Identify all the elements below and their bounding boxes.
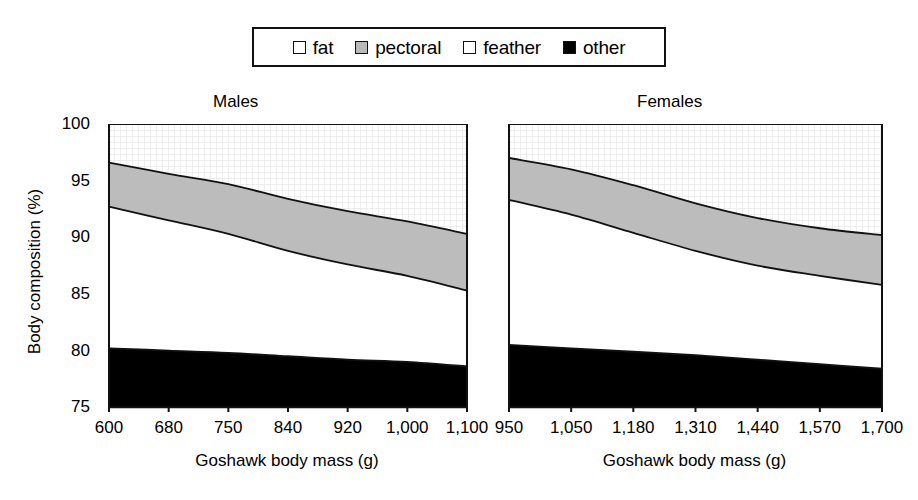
plot-panel-males <box>108 124 468 412</box>
panel-title-females: Females <box>637 93 702 110</box>
x-tick-label: 1,100 <box>446 419 489 436</box>
x-tick-label: 950 <box>495 419 523 436</box>
legend-label-feather: feather <box>483 38 541 57</box>
legend-label-fat: fat <box>313 38 334 57</box>
x-tick-label: 1,310 <box>674 419 717 436</box>
x-tick-label: 1,000 <box>386 419 429 436</box>
x-axis-tick-labels-males: 6006807508409201,0001,100 <box>108 419 466 441</box>
y-tick-label: 85 <box>50 285 90 302</box>
x-tick-label: 1,440 <box>736 419 779 436</box>
legend-label-pectoral: pectoral <box>375 38 441 57</box>
figure-container: fat pectoral feather other Males Females… <box>0 0 918 500</box>
legend-swatch-pectoral-icon <box>355 41 368 54</box>
x-tick-label: 840 <box>274 419 302 436</box>
legend-item-other: other <box>563 38 625 57</box>
males-area-chart <box>108 124 468 412</box>
legend-item-pectoral: pectoral <box>355 38 441 57</box>
x-tick-label: 1,180 <box>612 419 655 436</box>
x-axis-title-females: Goshawk body mass (g) <box>508 452 881 469</box>
y-axis-label: Body composition (%) <box>26 152 43 392</box>
y-tick-label: 95 <box>50 172 90 189</box>
x-tick-label: 1,050 <box>550 419 593 436</box>
x-tick-label: 920 <box>334 419 362 436</box>
y-tick-label: 80 <box>50 342 90 359</box>
legend-item-fat: fat <box>293 38 334 57</box>
x-tick-label: 750 <box>214 419 242 436</box>
y-tick-label: 90 <box>50 228 90 245</box>
x-axis-tick-labels-females: 9501,0501,1801,3101,4401,5701,700 <box>508 419 881 441</box>
plot-panel-females <box>508 124 883 412</box>
x-tick-label: 680 <box>155 419 183 436</box>
legend-item-feather: feather <box>463 38 541 57</box>
x-tick-label: 1,700 <box>861 419 904 436</box>
legend-swatch-other-icon <box>563 41 576 54</box>
females-area-chart <box>508 124 883 412</box>
x-tick-label: 1,570 <box>799 419 842 436</box>
legend-swatch-feather-icon <box>463 41 476 54</box>
panel-title-males: Males <box>213 93 258 110</box>
x-tick-label: 600 <box>95 419 123 436</box>
chart-legend: fat pectoral feather other <box>252 27 666 67</box>
y-axis-tick-labels: 1009590858075 <box>48 0 90 500</box>
y-tick-label: 75 <box>50 398 90 415</box>
legend-swatch-fat-icon <box>293 41 306 54</box>
x-axis-title-males: Goshawk body mass (g) <box>108 452 466 469</box>
legend-label-other: other <box>583 38 625 57</box>
y-tick-label: 100 <box>50 115 90 132</box>
